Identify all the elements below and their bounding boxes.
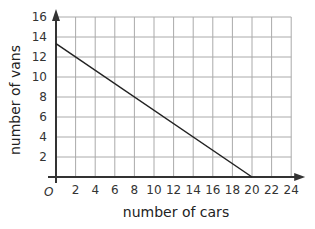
y-tick-label: 16 xyxy=(32,10,47,24)
x-tick-label: 18 xyxy=(225,183,240,197)
x-tick-label: 16 xyxy=(205,183,220,197)
y-tick-label: 8 xyxy=(39,90,47,104)
x-axis-arrow-icon xyxy=(294,173,305,181)
x-tick-label: 10 xyxy=(146,183,161,197)
y-tick-label: 10 xyxy=(32,70,47,84)
grid-lines xyxy=(56,17,291,177)
linear-graph: 24681012141618202224246810121416 O numbe… xyxy=(0,0,315,229)
x-tick-label: 6 xyxy=(111,183,119,197)
y-tick-label: 2 xyxy=(39,150,47,164)
x-tick-label: 24 xyxy=(284,183,299,197)
y-axis-label: number of vans xyxy=(7,45,23,155)
x-tick-label: 2 xyxy=(72,183,80,197)
tick-labels: 24681012141618202224246810121416 xyxy=(32,10,299,197)
x-tick-label: 22 xyxy=(264,183,279,197)
y-tick-label: 6 xyxy=(39,110,47,124)
y-tick-label: 12 xyxy=(32,50,47,64)
origin-label: O xyxy=(44,185,53,199)
x-tick-label: 4 xyxy=(91,183,99,197)
x-tick-label: 12 xyxy=(166,183,181,197)
y-tick-label: 14 xyxy=(32,30,47,44)
x-axis-label: number of cars xyxy=(123,204,229,220)
x-tick-label: 8 xyxy=(131,183,139,197)
y-tick-label: 4 xyxy=(39,130,47,144)
y-axis-arrow-icon xyxy=(52,9,60,21)
x-tick-label: 14 xyxy=(186,183,201,197)
x-tick-label: 20 xyxy=(244,183,259,197)
